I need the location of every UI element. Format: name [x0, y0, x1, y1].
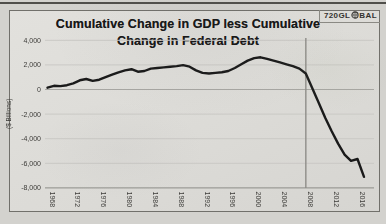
x-tick-label: 1976 — [100, 192, 107, 208]
y-tick-label: -2,000 — [21, 111, 41, 118]
x-tick-label: 1968 — [49, 192, 56, 208]
x-tick-label: 1984 — [152, 192, 159, 208]
globe-icon — [351, 11, 359, 21]
y-tick-label: 4,000 — [23, 37, 41, 44]
x-tick-label: 1980 — [126, 192, 133, 208]
x-tick-label: 1972 — [74, 192, 81, 208]
y-tick-label: -8,000 — [21, 184, 41, 191]
y-tick-label: -6,000 — [21, 160, 41, 167]
x-tick-label: 1992 — [204, 192, 211, 208]
y-tick-label: -4,000 — [21, 135, 41, 142]
x-tick-label: 2004 — [281, 192, 288, 208]
logo-720global: 720GL BAL — [319, 10, 380, 23]
x-tick-label: 2000 — [255, 192, 262, 208]
gdp-debt-line-chart: 4,0002,0000-2,000-4,000-6,000-8,00019681… — [0, 0, 386, 224]
x-tick-label: 2016 — [359, 192, 366, 208]
x-tick-label: 2012 — [333, 192, 340, 208]
logo-text-right: BAL — [359, 11, 377, 20]
chart-screenshot: Cumulative Change in GDP less Cumulative… — [0, 0, 386, 224]
x-tick-label: 1988 — [178, 192, 185, 208]
y-tick-label: 2,000 — [23, 61, 41, 68]
x-tick-label: 2008 — [307, 192, 314, 208]
x-tick-label: 1996 — [229, 192, 236, 208]
logo-text-left: 720GL — [324, 11, 350, 20]
gdp-less-debt-line — [48, 57, 365, 177]
y-tick-label: 0 — [37, 86, 41, 93]
